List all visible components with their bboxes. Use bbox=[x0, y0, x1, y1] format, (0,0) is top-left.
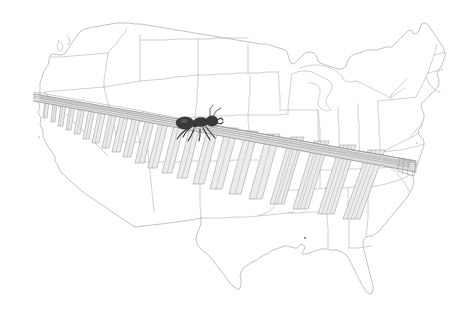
bridge-structure bbox=[34, 92, 416, 219]
illustration-root: Ant Crossing a Transcontinental Bridge O… bbox=[0, 0, 472, 312]
sketch-canvas bbox=[0, 0, 472, 312]
